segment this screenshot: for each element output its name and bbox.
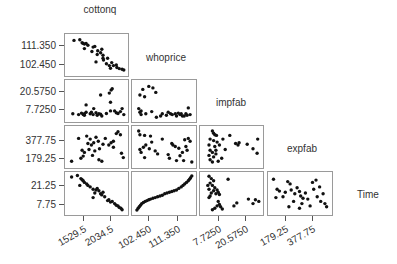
data-point — [96, 49, 99, 52]
data-point — [143, 134, 146, 137]
data-point — [237, 141, 240, 144]
data-point — [274, 196, 277, 199]
data-point — [102, 58, 105, 61]
data-point — [138, 148, 141, 151]
data-point — [185, 114, 188, 117]
data-point — [290, 188, 293, 191]
data-point — [168, 157, 171, 160]
data-point — [183, 138, 186, 141]
data-point — [143, 95, 146, 98]
data-point — [295, 186, 298, 189]
data-point — [254, 198, 257, 201]
y-tick-label: 7.75 — [37, 199, 57, 210]
panel-Time-vs-whoprice — [132, 172, 197, 216]
data-point — [292, 200, 295, 203]
data-point — [78, 38, 81, 41]
data-point — [174, 145, 177, 148]
data-point — [154, 149, 157, 152]
panel-impfab-vs-whoprice — [132, 80, 197, 123]
data-point — [251, 202, 254, 205]
data-point — [78, 184, 81, 187]
panel-impfab-vs-cottonq — [65, 80, 129, 123]
data-point — [144, 143, 147, 146]
data-point — [112, 64, 115, 67]
data-point — [150, 140, 153, 143]
x-tick-label: 179.25 — [258, 223, 290, 248]
data-point — [181, 114, 184, 117]
data-point — [112, 140, 115, 143]
data-point — [149, 134, 152, 137]
data-point — [83, 47, 86, 50]
data-point — [184, 145, 187, 148]
data-point — [214, 149, 217, 152]
data-point — [255, 152, 258, 155]
data-point — [94, 60, 97, 63]
data-point — [256, 137, 259, 140]
data-point — [150, 110, 153, 113]
data-point — [165, 114, 168, 117]
data-point — [212, 179, 215, 182]
data-point — [298, 207, 301, 210]
data-point — [156, 152, 159, 155]
data-point — [103, 195, 106, 198]
data-point — [228, 134, 231, 137]
y-tick-label: 102.450 — [20, 59, 57, 70]
data-point — [154, 91, 157, 94]
data-point — [208, 137, 211, 140]
data-point — [112, 146, 115, 149]
data-point — [93, 149, 96, 152]
x-tick-label: 111.350 — [146, 223, 182, 250]
data-point — [91, 196, 94, 199]
y-tick-label: 20.5750 — [20, 86, 57, 97]
data-point — [139, 113, 142, 116]
panel-frame — [200, 126, 264, 169]
data-point — [161, 112, 164, 115]
data-point — [211, 208, 214, 211]
data-point — [138, 93, 141, 96]
data-point — [119, 110, 122, 113]
data-point — [141, 88, 144, 91]
data-point — [221, 207, 224, 210]
data-point — [177, 111, 180, 114]
data-point — [83, 151, 86, 154]
data-point — [247, 197, 250, 200]
data-point — [85, 134, 88, 137]
data-point — [232, 204, 235, 207]
data-point — [116, 130, 119, 133]
data-point — [100, 114, 103, 117]
data-point — [212, 155, 215, 158]
data-point — [144, 112, 147, 115]
data-point — [167, 153, 170, 156]
data-point — [72, 39, 75, 42]
data-point — [217, 160, 220, 163]
data-point — [106, 57, 109, 60]
data-point — [98, 147, 101, 150]
data-point — [325, 205, 328, 208]
data-point — [155, 116, 158, 119]
data-point — [94, 136, 97, 139]
scatterplot-matrix: cottonqwhopriceimpfabexpfabTime 111.3501… — [0, 0, 397, 264]
data-point — [97, 158, 100, 161]
data-point — [89, 137, 92, 140]
data-point — [83, 114, 86, 117]
data-point — [120, 208, 123, 211]
data-point — [207, 143, 210, 146]
data-point — [218, 143, 221, 146]
panel-expfab-vs-impfab — [200, 126, 264, 169]
variable-label-whoprice: whoprice — [145, 52, 186, 63]
data-point — [76, 174, 79, 177]
panel-Time-vs-cottonq — [65, 172, 129, 216]
y-tick-label: 111.350 — [21, 40, 56, 51]
data-point — [298, 190, 301, 193]
data-point — [84, 103, 87, 106]
data-point — [104, 137, 107, 140]
data-point — [120, 152, 123, 155]
data-point — [79, 157, 82, 160]
data-point — [105, 112, 108, 115]
data-point — [99, 51, 102, 54]
data-point — [100, 48, 103, 51]
data-point — [246, 143, 249, 146]
data-point — [185, 149, 188, 152]
y-tick-label: 7.7250 — [25, 104, 56, 115]
data-point — [105, 62, 108, 65]
